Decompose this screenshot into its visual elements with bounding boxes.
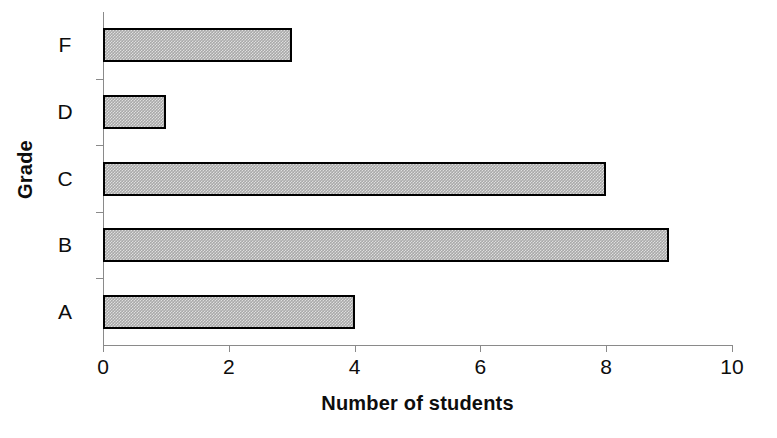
- x-axis-title: Number of students: [103, 392, 732, 415]
- x-tick-mark: [606, 345, 607, 352]
- plot-area: [103, 12, 732, 345]
- x-tick-label-0: 0: [73, 355, 133, 379]
- x-tick-label-8: 8: [576, 355, 636, 379]
- y-tick-mark: [96, 145, 104, 146]
- x-tick-label-6: 6: [450, 355, 510, 379]
- y-tick-label-f: F: [43, 33, 87, 57]
- x-axis-line: [103, 345, 733, 346]
- x-tick-label-2: 2: [199, 355, 259, 379]
- x-tick-mark: [103, 345, 104, 352]
- y-tick-mark: [96, 212, 104, 213]
- bar-chart: 0246810 FDCBA Number of students Grade: [0, 0, 777, 438]
- y-tick-label-c: C: [43, 167, 87, 191]
- x-tick-mark: [480, 345, 481, 352]
- y-tick-label-b: B: [43, 233, 87, 257]
- y-tick-mark: [96, 278, 104, 279]
- bar-c: [103, 162, 606, 196]
- x-tick-label-10: 10: [702, 355, 762, 379]
- y-axis-title: Grade: [14, 100, 37, 240]
- x-tick-label-4: 4: [325, 355, 385, 379]
- bar-d: [103, 95, 166, 129]
- x-tick-mark: [229, 345, 230, 352]
- x-tick-mark: [732, 345, 733, 352]
- bar-a: [103, 295, 355, 329]
- bar-f: [103, 28, 292, 62]
- y-tick-label-d: D: [43, 100, 87, 124]
- y-tick-mark: [96, 79, 104, 80]
- x-tick-mark: [355, 345, 356, 352]
- y-tick-label-a: A: [43, 300, 87, 324]
- bar-b: [103, 228, 669, 262]
